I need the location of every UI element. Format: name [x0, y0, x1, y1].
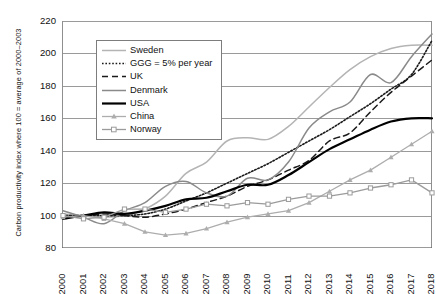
legend-item-denmark[interactable]: Denmark: [101, 84, 217, 97]
data-point-marker: [348, 191, 352, 195]
x-tick-label: 2000: [57, 273, 66, 294]
series-line-china: [63, 131, 432, 235]
data-point-marker: [163, 210, 167, 214]
legend-item-label: Denmark: [130, 86, 168, 95]
y-tick-label: 160: [22, 113, 56, 123]
x-tick-label: 2001: [77, 273, 86, 294]
x-tick-label: 2011: [282, 274, 291, 294]
data-point-marker: [286, 197, 290, 201]
data-point-marker: [389, 183, 393, 187]
data-point-marker: [430, 191, 434, 195]
data-point-marker: [409, 178, 413, 182]
legend-item-norway[interactable]: Norway: [101, 123, 217, 136]
y-axis-tick-labels: 80100120140160180200220: [22, 0, 56, 294]
data-point-marker: [307, 194, 311, 198]
legend-item-sweden[interactable]: Sweden: [101, 44, 217, 57]
y-tick-label: 80: [22, 243, 56, 253]
x-tick-label: 2002: [98, 273, 107, 294]
data-point-marker: [143, 207, 147, 211]
data-point-marker: [429, 129, 434, 134]
y-tick-label: 200: [22, 48, 56, 58]
y-tick-label: 220: [22, 16, 56, 26]
x-tick-label: 2010: [262, 273, 271, 294]
data-point-marker: [368, 186, 372, 190]
x-tick-label: 2008: [221, 273, 230, 294]
legend-item-label: Norway: [130, 125, 162, 134]
data-point-marker: [327, 194, 331, 198]
x-tick-label: 2006: [180, 273, 189, 294]
legend-swatch-icon: [101, 85, 127, 96]
legend-swatch-icon: [101, 45, 127, 56]
legend-item-label: UK: [130, 72, 143, 81]
data-point-marker: [225, 204, 229, 208]
data-point-marker: [306, 200, 311, 205]
x-tick-label: 2009: [241, 273, 250, 294]
x-tick-label: 2018: [426, 273, 435, 294]
data-point-marker: [245, 201, 249, 205]
data-point-marker: [327, 189, 332, 194]
y-tick-label: 140: [22, 146, 56, 156]
x-tick-label: 2003: [118, 273, 127, 294]
legend-swatch-icon: [101, 98, 127, 109]
legend-swatch-icon: [101, 71, 127, 82]
x-tick-label: 2013: [323, 273, 332, 294]
legend-item-usa[interactable]: USA: [101, 97, 217, 110]
y-tick-label: 180: [22, 81, 56, 91]
carbon-productivity-chart: Carbon productivity index where 100 = av…: [0, 0, 436, 294]
x-tick-label: 2012: [303, 273, 312, 294]
legend-item-label: GGG = 5% per year: [130, 59, 212, 68]
chart-legend: SwedenGGG = 5% per yearUKDenmarkUSAChina…: [96, 40, 222, 140]
legend-swatch-icon: [101, 111, 127, 122]
legend-item-label: Sweden: [130, 46, 164, 55]
legend-item-uk[interactable]: UK: [101, 70, 217, 83]
x-axis-tick-labels: 2000200120022003200420052006200720082009…: [62, 249, 432, 294]
data-point-marker: [184, 207, 188, 211]
data-point-marker: [61, 213, 65, 217]
legend-swatch-icon: [101, 124, 127, 135]
data-point-marker: [204, 202, 208, 206]
legend-swatch-icon: [101, 58, 127, 69]
data-point-marker: [102, 215, 106, 219]
y-tick-label: 100: [22, 211, 56, 221]
x-tick-label: 2007: [200, 273, 209, 294]
data-point-marker: [122, 207, 126, 211]
legend-item-china[interactable]: China: [101, 110, 217, 123]
x-tick-label: 2017: [405, 273, 414, 294]
x-tick-label: 2015: [364, 273, 373, 294]
x-tick-label: 2005: [159, 273, 168, 294]
x-tick-label: 2016: [385, 273, 394, 294]
legend-item-label: China: [130, 112, 154, 121]
legend-item-ggg-5-per-year[interactable]: GGG = 5% per year: [101, 57, 217, 70]
x-tick-label: 2014: [344, 273, 353, 294]
y-tick-label: 120: [22, 178, 56, 188]
x-tick-label: 2004: [139, 273, 148, 294]
data-point-marker: [266, 202, 270, 206]
legend-item-label: USA: [130, 99, 149, 108]
data-point-marker: [81, 217, 85, 221]
